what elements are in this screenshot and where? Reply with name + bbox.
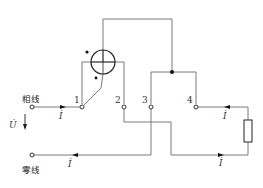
terminal-1-label: 1 [74, 96, 80, 105]
terminal-2 [122, 105, 126, 109]
arrow-neutral-icon [72, 153, 78, 157]
link-1-meter [84, 88, 101, 105]
current-phase-label: İ [59, 112, 63, 121]
phase-terminal [30, 105, 34, 109]
arrow-load-top-icon [224, 105, 230, 109]
terminal-2-to-load [124, 109, 248, 155]
arrow-load-bottom-icon [218, 153, 224, 157]
terminal-3 [149, 105, 153, 109]
terminal-4 [194, 105, 198, 109]
arrow-phase-icon [60, 105, 66, 109]
neutral-line-label: 零线 [22, 166, 40, 175]
terminal-4-label: 4 [187, 96, 193, 105]
current-load-bottom-label: İ [219, 159, 223, 168]
neutral-terminal [30, 153, 34, 157]
junction-dot [170, 70, 174, 74]
terminal-3-label: 3 [142, 96, 148, 105]
terminal-2-label: 2 [115, 96, 121, 105]
phase-line-label: 相线 [22, 95, 40, 104]
current-neutral-label: İ [68, 160, 72, 169]
voltage-label: U̇ [9, 121, 17, 130]
resistor-icon [244, 120, 252, 142]
voltage-coil-wire [103, 19, 172, 72]
terminal-1 [80, 105, 84, 109]
current-load-top-label: İ [223, 112, 227, 121]
polarity-star-icon [95, 77, 98, 80]
wattmeter-icon [91, 50, 115, 74]
polarity-dot-icon [85, 50, 88, 53]
